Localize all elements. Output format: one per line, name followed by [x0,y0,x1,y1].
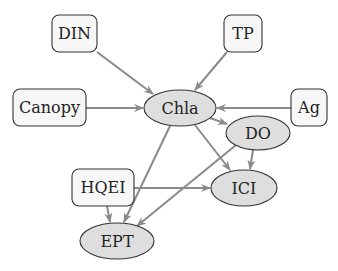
node-canopy: Canopy [13,89,86,126]
node-ici-label: ICI [232,179,257,198]
node-tp-label: TP [232,24,254,43]
edge-chla-do [210,118,227,124]
node-din-label: DIN [58,24,91,43]
edge-din-chla [97,52,153,94]
node-din: DIN [52,15,97,52]
node-tp: TP [224,15,262,52]
node-hqei: HQEI [72,169,134,206]
node-canopy-label: Canopy [19,98,80,117]
node-ici: ICI [211,170,277,206]
node-ag: Ag [291,89,327,126]
node-chla: Chla [144,90,216,126]
node-ept-label: EPT [100,232,133,251]
node-ept: EPT [80,223,154,259]
node-hqei-label: HQEI [80,178,125,197]
edge-hqei-ept [107,206,110,222]
node-chla-label: Chla [161,99,199,118]
node-do: DO [226,116,290,150]
node-do-label: DO [245,124,271,143]
edge-tp-chla [195,52,227,90]
causal-diagram: DIN TP Canopy Ag Chla DO ICI HQEI EPT [0,0,338,271]
edge-do-ici [250,150,253,169]
node-ag-label: Ag [297,98,320,117]
